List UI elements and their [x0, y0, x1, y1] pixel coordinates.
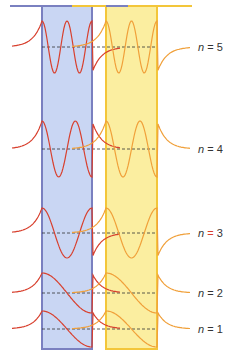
level-label-n5-num: 5 — [217, 41, 223, 53]
double-well-diagram: n = 5 n = 4 n = 3 n = 2 n = 1 — [0, 0, 230, 355]
level-label-n5-eq: = — [204, 41, 217, 53]
level-label-n1: n = 1 — [198, 323, 223, 335]
level-n3 — [12, 208, 190, 258]
level-label-n4-eq: = — [204, 143, 217, 155]
level-label-n2-eq: = — [204, 287, 217, 299]
level-label-n2-num: 2 — [217, 287, 223, 299]
level-label-n2: n = 2 — [198, 287, 223, 299]
level-label-n4: n = 4 — [198, 143, 223, 155]
level-n1 — [12, 311, 190, 347]
level-label-n3-num: 3 — [217, 227, 223, 239]
level-label-n1-eq: = — [204, 323, 217, 335]
level-n5 — [12, 21, 190, 73]
level-label-n5: n = 5 — [198, 41, 223, 53]
level-n2 — [12, 273, 190, 313]
level-n4 — [12, 121, 190, 177]
energy-levels — [12, 21, 190, 347]
level-label-n3: n = 3 — [198, 227, 223, 239]
level-label-n3-eq: = — [204, 227, 217, 239]
level-label-n4-num: 4 — [217, 143, 223, 155]
level-label-n1-num: 1 — [217, 323, 223, 335]
